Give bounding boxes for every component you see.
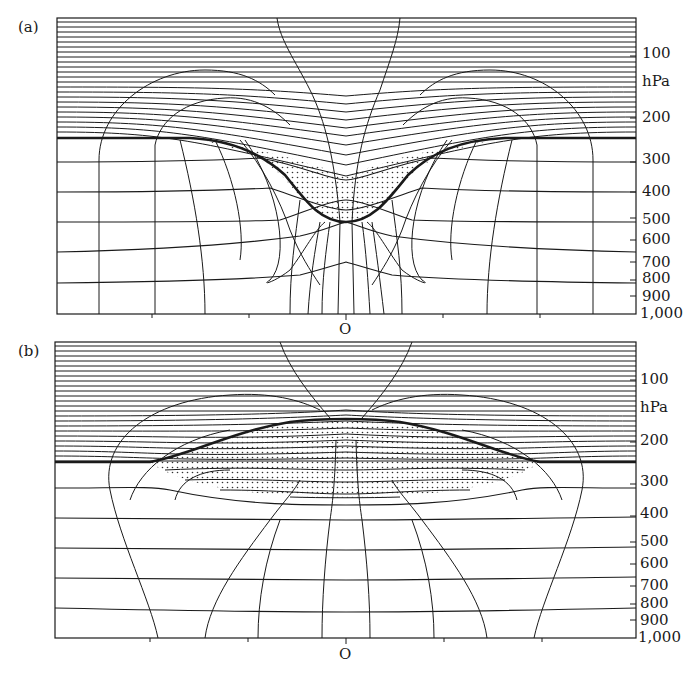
panel-b-troposphere-isentropes [55,488,636,613]
panel-a-stratosphere-isentropes [57,22,636,176]
panel-b-x-ticks [150,638,542,644]
panel-b [55,342,636,644]
panel-a-x-ticks [152,314,540,320]
panel-a [57,18,636,320]
cross-section-diagrams [0,0,694,679]
